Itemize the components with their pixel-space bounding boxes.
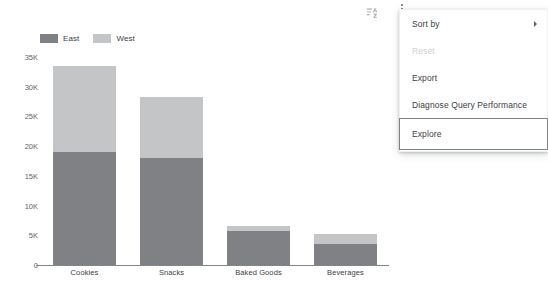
bar-segment-east[interactable] <box>53 152 116 265</box>
bar-cookies[interactable] <box>53 66 116 265</box>
x-axis-tick-label: Beverages <box>302 268 389 277</box>
menu-item-diagnose-query-performance[interactable]: Diagnose Query Performance <box>400 91 547 118</box>
menu-item-label: Explore <box>412 129 442 139</box>
bar-segment-east[interactable] <box>140 158 203 265</box>
bar-segment-west[interactable] <box>53 66 116 152</box>
menu-item-label: Reset <box>412 46 435 56</box>
chart-page: Sort by Reset Export Diagnose Query Perf… <box>0 0 548 296</box>
x-axis-tick-label: Snacks <box>128 268 215 277</box>
bar-series-container <box>41 0 389 296</box>
menu-item-label: Sort by <box>412 19 440 29</box>
menu-item-label: Export <box>412 73 437 83</box>
bar-segment-west[interactable] <box>140 97 203 158</box>
menu-item-label: Diagnose Query Performance <box>412 100 527 110</box>
bar-segment-west[interactable] <box>227 226 290 230</box>
y-axis-tick-mark <box>36 265 41 266</box>
plot-area <box>0 0 400 296</box>
context-menu: Sort by Reset Export Diagnose Query Perf… <box>399 9 548 152</box>
menu-item-sort-by[interactable]: Sort by <box>400 10 547 37</box>
bar-segment-west[interactable] <box>314 234 377 244</box>
bar-segment-east[interactable] <box>314 244 377 265</box>
x-axis-tick-label: Cookies <box>41 268 128 277</box>
stacked-bar-chart: East West 05K10K15K20K25K30K35K CookiesS… <box>0 0 400 296</box>
x-axis-tick-label: Baked Goods <box>215 268 302 277</box>
menu-item-export[interactable]: Export <box>400 64 547 91</box>
bar-snacks[interactable] <box>140 97 203 265</box>
bar-segment-east[interactable] <box>227 231 290 265</box>
chevron-right-icon <box>534 21 537 27</box>
menu-item-explore[interactable]: Explore <box>399 118 548 150</box>
bar-baked-goods[interactable] <box>227 226 290 265</box>
menu-item-reset: Reset <box>400 37 547 64</box>
bar-beverages[interactable] <box>314 234 377 265</box>
